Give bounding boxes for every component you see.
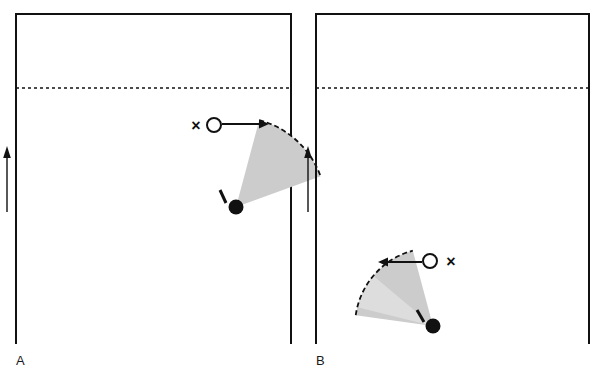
panel-b-open-circle-marker: [423, 254, 437, 268]
panel-a-label: A: [16, 353, 25, 368]
panel-a-open-circle-marker: [207, 118, 221, 132]
panel-b: × B: [304, 14, 589, 368]
panel-b-label: B: [316, 353, 325, 368]
diagram-svg: × A × B: [0, 0, 599, 372]
panel-b-pivot-dot: [426, 319, 441, 334]
panel-a: × A: [0, 0, 321, 368]
panel-b-x-marker: ×: [446, 253, 455, 270]
panel-a-x-marker: ×: [191, 117, 200, 134]
figure-container: × A × B: [0, 0, 599, 372]
panel-a-pivot-dot: [229, 200, 244, 215]
panel-b-frame: [316, 14, 589, 344]
panel-a-tick-mark: [220, 190, 226, 203]
panel-a-flow-arrow: [3, 146, 11, 212]
panel-a-motion-arrow: [222, 119, 269, 128]
